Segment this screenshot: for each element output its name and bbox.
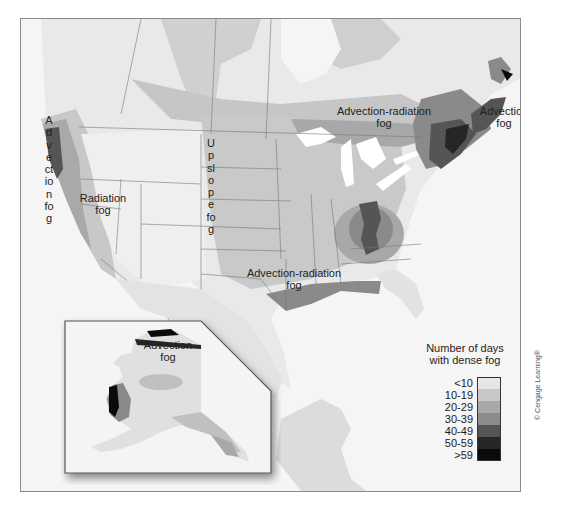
legend-row: 50-59 — [427, 437, 501, 449]
map-frame: Advection fog Advection fog Radiation fo… — [20, 18, 521, 492]
advection-radiation-south-line1: Advection-radiation — [239, 267, 349, 279]
legend-row: 20-29 — [427, 401, 501, 413]
radiation-fog-line1: Radiation — [73, 192, 133, 204]
legend-row: >59 — [427, 449, 501, 461]
legend-row: 40-49 — [427, 425, 501, 437]
advection-fog-ne-line2: fog — [479, 117, 521, 129]
legend-label: 30-39 — [427, 413, 477, 425]
fog-days-legend: Number of days with dense fog <10 10-19 … — [415, 342, 515, 366]
legend-swatch — [477, 425, 501, 437]
legend-swatch — [477, 413, 501, 425]
label-advection-fog-northeast: Advection fog — [479, 105, 521, 129]
alaska-advection-line2: fog — [138, 351, 198, 363]
label-advection-radiation-fog-south: Advection-radiation fog — [239, 267, 349, 291]
label-radiation-fog: Radiation fog — [73, 192, 133, 216]
label-upslope-fog: Upslope fog — [206, 137, 216, 235]
legend-title-line2: with dense fog — [415, 354, 515, 366]
legend-label: >59 — [427, 449, 477, 461]
radiation-fog-line2: fog — [73, 204, 133, 216]
label-advection-radiation-fog-northeast: Advection-radiation fog — [329, 105, 439, 129]
legend-row: 10-19 — [427, 389, 501, 401]
legend-row: <10 — [427, 377, 501, 389]
legend-label: <10 — [427, 377, 477, 389]
advection-fog-ne-line1: Advection — [479, 105, 521, 117]
legend-swatch — [477, 437, 501, 449]
legend-title-line1: Number of days — [415, 342, 515, 354]
advection-radiation-ne-line1: Advection-radiation — [329, 105, 439, 117]
legend-label: 40-49 — [427, 425, 477, 437]
legend-swatch — [477, 377, 501, 389]
advection-radiation-south-line2: fog — [239, 279, 349, 291]
legend-swatch — [477, 389, 501, 401]
legend-label: 10-19 — [427, 389, 477, 401]
label-advection-fog-west: Advection fog — [44, 114, 54, 225]
legend-label: 50-59 — [427, 437, 477, 449]
advection-radiation-ne-line2: fog — [329, 117, 439, 129]
alaska-advection-line1: Advection — [138, 339, 198, 351]
copyright-credit: © Cengage Learning® — [534, 350, 541, 420]
label-alaska-advection-fog: Advection fog — [138, 339, 198, 363]
legend-swatch — [477, 449, 501, 461]
legend-label: 20-29 — [427, 401, 477, 413]
legend-swatch — [477, 401, 501, 413]
legend-row: 30-39 — [427, 413, 501, 425]
legend-classes: <10 10-19 20-29 30-39 40-49 50-59 >59 — [427, 377, 501, 461]
